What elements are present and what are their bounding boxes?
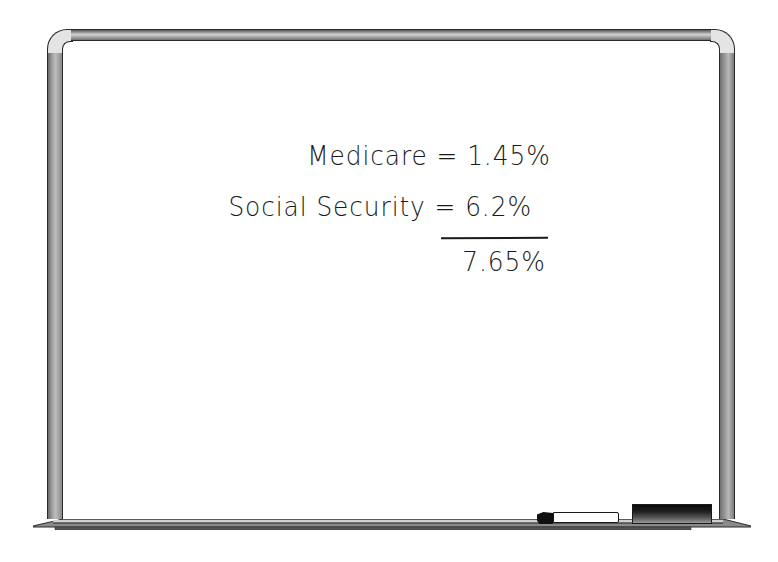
equation-line-medicare: Medicare = 1.45% [308, 142, 551, 169]
equals-sign: = [435, 191, 457, 222]
equals-sign: = [437, 140, 459, 171]
medicare-label: Medicare [308, 140, 429, 171]
sum-divider-line [441, 237, 548, 239]
total-value: 7.65% [462, 246, 546, 277]
social-security-value: 6.2% [465, 191, 532, 222]
whiteboard-scene: Medicare = 1.45% Social Security = 6.2% … [0, 0, 778, 562]
equation-line-social-security: Social Security = 6.2% [228, 193, 532, 220]
social-security-label: Social Security [228, 191, 425, 222]
medicare-value: 1.45% [467, 140, 551, 171]
equation-total: 7.65% [462, 248, 546, 275]
handwritten-equation: Medicare = 1.45% Social Security = 6.2% … [0, 0, 778, 562]
